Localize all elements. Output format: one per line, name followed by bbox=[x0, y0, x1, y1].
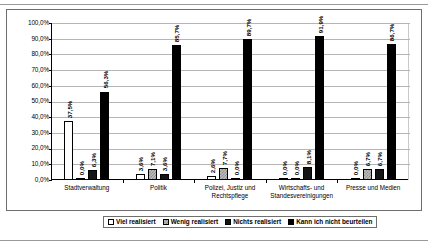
legend-item[interactable]: Nichts realisiert bbox=[225, 219, 281, 225]
bar-value-label: 37,5% bbox=[67, 101, 73, 119]
y-axis-tick-label: 90,0% bbox=[9, 36, 49, 42]
bar-value-label: 7,1% bbox=[151, 152, 157, 166]
x-axis-category-label: Politik bbox=[123, 184, 195, 192]
bar[interactable]: 86,7% bbox=[387, 44, 396, 180]
y-axis-tick-label: 50,0% bbox=[9, 98, 49, 104]
x-axis-group-separator bbox=[266, 180, 267, 183]
bar[interactable]: 37,5% bbox=[64, 121, 73, 180]
bar[interactable]: 2,6% bbox=[207, 176, 216, 180]
bar-group: 0,0%6,7%6,7%86,7% bbox=[337, 23, 409, 180]
bar[interactable]: 0,0% bbox=[76, 178, 85, 180]
x-axis-category-label: Wirtschafts- undStandesvereinigungen bbox=[266, 184, 338, 199]
bar-value-label: 7,7% bbox=[222, 151, 228, 165]
bar[interactable]: 6,7% bbox=[375, 169, 384, 180]
legend-swatch-icon bbox=[108, 219, 114, 225]
bar-value-label: 0,0% bbox=[282, 161, 288, 175]
page-rule-bottom bbox=[0, 240, 428, 241]
bar-value-label: 0,0% bbox=[234, 161, 240, 175]
y-axis-tick-label: 60,0% bbox=[9, 83, 49, 89]
bar-value-label: 0,0% bbox=[354, 161, 360, 175]
bar[interactable]: 6,3% bbox=[88, 170, 97, 180]
y-axis: 100,0%90,0%80,0%70,0%60,0%50,0%40,0%30,0… bbox=[7, 23, 49, 180]
x-axis-category-labels: StadtverwaltungPolitikPolizei, Justiz un… bbox=[51, 184, 409, 214]
chart-legend: Viel realisiertWenig realisiertNichts re… bbox=[103, 216, 377, 228]
legend-swatch-icon bbox=[225, 219, 231, 225]
y-axis-tick-label: 10,0% bbox=[9, 161, 49, 167]
x-axis-category-label: Presse und Medien bbox=[337, 184, 409, 192]
y-axis-tick-label: 100,0% bbox=[9, 20, 49, 26]
bar-value-label: 0,0% bbox=[294, 161, 300, 175]
y-axis-tick-label: 40,0% bbox=[9, 114, 49, 120]
bar-group: 37,5%0,0%6,3%56,3% bbox=[51, 23, 123, 180]
bar[interactable]: 3,6% bbox=[136, 174, 145, 180]
x-axis-category-label: Stadtverwaltung bbox=[51, 184, 123, 192]
bar[interactable]: 8,1% bbox=[303, 167, 312, 180]
bar-group: 2,6%7,7%0,0%89,7% bbox=[194, 23, 266, 180]
page-rule-top bbox=[0, 4, 428, 5]
bar-value-label: 2,6% bbox=[210, 159, 216, 173]
y-axis-tick-label: 30,0% bbox=[9, 130, 49, 136]
y-axis-tick-label: 70,0% bbox=[9, 67, 49, 73]
bar[interactable]: 0,0% bbox=[231, 178, 240, 180]
bar-value-label: 56,3% bbox=[103, 71, 109, 89]
bar-value-label: 89,7% bbox=[246, 19, 252, 37]
x-axis-group-separator bbox=[194, 180, 195, 183]
chart-frame: 100,0%90,0%80,0%70,0%60,0%50,0%40,0%30,0… bbox=[6, 9, 422, 211]
legend-item[interactable]: Wenig realisiert bbox=[163, 219, 218, 225]
bar[interactable]: 85,7% bbox=[172, 45, 181, 180]
y-axis-tick-label: 0,0% bbox=[9, 177, 49, 183]
bar-value-label: 91,9% bbox=[318, 15, 324, 33]
bar-value-label: 85,7% bbox=[175, 25, 181, 43]
bar[interactable]: 7,7% bbox=[219, 168, 228, 180]
legend-label: Nichts realisiert bbox=[233, 219, 281, 225]
bar[interactable]: 56,3% bbox=[100, 92, 109, 180]
bar-value-label: 8,1% bbox=[306, 150, 312, 164]
bar-group: 3,6%7,1%3,6%85,7% bbox=[123, 23, 195, 180]
bar-value-label: 3,6% bbox=[163, 157, 169, 171]
bar[interactable]: 7,1% bbox=[148, 169, 157, 180]
bar[interactable]: 3,6% bbox=[160, 174, 169, 180]
legend-item[interactable]: Kann ich nicht beurteilen bbox=[288, 219, 372, 225]
bar-value-label: 6,3% bbox=[91, 153, 97, 167]
bar[interactable]: 89,7% bbox=[243, 39, 252, 180]
y-axis-tick-label: 20,0% bbox=[9, 145, 49, 151]
bar-value-label: 3,6% bbox=[139, 157, 145, 171]
bar[interactable]: 6,7% bbox=[363, 169, 372, 180]
bar-value-label: 86,7% bbox=[390, 23, 396, 41]
bar-value-label: 0,0% bbox=[79, 161, 85, 175]
bar-group: 0,0%0,0%8,1%91,9% bbox=[266, 23, 338, 180]
bar-value-label: 6,7% bbox=[378, 152, 384, 166]
x-axis-group-separator bbox=[337, 180, 338, 183]
legend-item[interactable]: Viel realisiert bbox=[108, 219, 156, 225]
bar-value-label: 6,7% bbox=[366, 152, 372, 166]
bar[interactable]: 91,9% bbox=[315, 36, 324, 180]
bar[interactable]: 0,0% bbox=[351, 178, 360, 180]
x-axis-category-label: Polizei, Justiz undRechtspflege bbox=[194, 184, 266, 199]
bar-groups: 37,5%0,0%6,3%56,3%3,6%7,1%3,6%85,7%2,6%7… bbox=[51, 23, 409, 180]
y-axis-tick-label: 80,0% bbox=[9, 51, 49, 57]
legend-label: Viel realisiert bbox=[116, 219, 156, 225]
legend-swatch-icon bbox=[163, 219, 169, 225]
legend-swatch-icon bbox=[288, 219, 294, 225]
legend-label: Kann ich nicht beurteilen bbox=[296, 219, 372, 225]
bar[interactable]: 0,0% bbox=[291, 178, 300, 180]
bar[interactable]: 0,0% bbox=[279, 178, 288, 180]
chart-screenshot: 100,0%90,0%80,0%70,0%60,0%50,0%40,0%30,0… bbox=[0, 0, 428, 245]
legend-label: Wenig realisiert bbox=[171, 219, 218, 225]
y-axis-tick-mark bbox=[49, 180, 52, 181]
x-axis-group-separator bbox=[123, 180, 124, 183]
